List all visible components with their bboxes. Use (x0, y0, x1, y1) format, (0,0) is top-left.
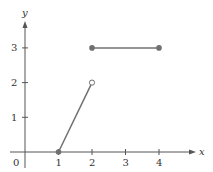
y-axis-arrow-icon (23, 21, 28, 28)
y-tick-label: 1 (11, 112, 17, 123)
x-tick-label: 4 (156, 157, 162, 168)
x-tick-label: 1 (56, 157, 62, 168)
y-tick-label: 3 (11, 42, 17, 53)
closed-point-marker (89, 45, 95, 51)
axes: xy01234123 (10, 7, 205, 168)
open-point-marker (89, 80, 94, 85)
piecewise-function-plot: xy01234123 (0, 0, 213, 172)
y-axis-label: y (21, 7, 28, 18)
origin-label: 0 (13, 157, 19, 168)
x-tick-label: 2 (89, 157, 95, 168)
x-axis-arrow-icon (189, 150, 196, 155)
x-tick-label: 3 (123, 157, 129, 168)
closed-point-marker (156, 45, 162, 51)
y-tick-label: 2 (11, 77, 17, 88)
closed-point-marker (56, 149, 62, 155)
x-axis-label: x (199, 146, 205, 157)
series-layer (56, 45, 162, 155)
segment-1-line (59, 83, 93, 152)
